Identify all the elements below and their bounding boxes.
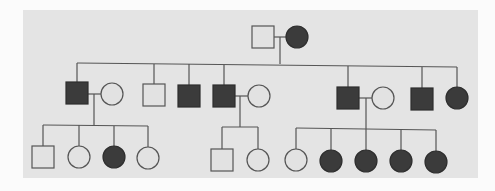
affected-female-i-2-icon <box>286 26 308 48</box>
affected-female-ii-7-icon <box>446 87 468 109</box>
pedigree-chart <box>0 0 495 191</box>
unaffected-male-iii-5-icon <box>211 149 233 171</box>
affected-male-ii-5-icon <box>337 87 359 109</box>
unaffected-female-ii-4s-icon <box>248 85 270 107</box>
unaffected-female-ii-1s-icon <box>101 83 123 105</box>
affected-male-ii-3-icon <box>178 85 200 107</box>
unaffected-male-i-1-icon <box>252 26 274 48</box>
unaffected-female-iii-2-icon <box>68 146 90 168</box>
affected-male-ii-4-icon <box>213 85 235 107</box>
unaffected-female-iii-6-icon <box>247 149 269 171</box>
affected-female-iii-3-icon <box>103 146 125 168</box>
affected-male-ii-6-icon <box>411 88 433 110</box>
unaffected-female-iii-4-icon <box>137 147 159 169</box>
unaffected-female-ii-5s-icon <box>372 87 394 109</box>
unaffected-male-iii-1-icon <box>32 146 54 168</box>
affected-female-iii-8-icon <box>320 150 342 172</box>
unaffected-female-iii-7-icon <box>285 149 307 171</box>
affected-female-iii-10-icon <box>390 150 412 172</box>
unaffected-male-ii-2-icon <box>143 84 165 106</box>
affected-female-iii-11-icon <box>425 151 447 173</box>
affected-male-ii-1-icon <box>66 82 88 104</box>
affected-female-iii-9-icon <box>355 150 377 172</box>
